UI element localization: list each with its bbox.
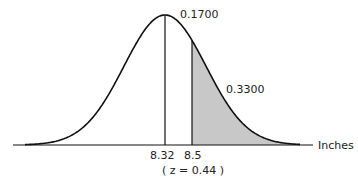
- z-score-label: ( z = 0.44 ): [162, 165, 224, 176]
- x-axis-label: Inches: [318, 140, 354, 151]
- mean-tick-label: 8.32: [150, 150, 175, 161]
- center-area-label: 0.1700: [180, 9, 219, 20]
- normal-curve: [25, 15, 300, 145]
- tail-area-label: 0.3300: [226, 84, 265, 95]
- normal-curve-chart: [0, 0, 358, 184]
- cutoff-tick-label: 8.5: [184, 150, 202, 161]
